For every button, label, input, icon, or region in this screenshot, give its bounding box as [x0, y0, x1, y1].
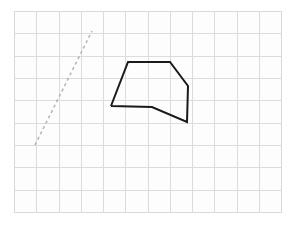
figure-stage [0, 0, 291, 225]
graph-canvas [0, 0, 291, 225]
